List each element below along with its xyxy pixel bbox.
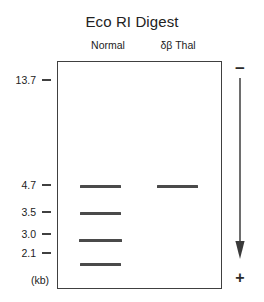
band-normal-3-5 — [80, 212, 121, 215]
ladder-label-3-5: 3.5 — [21, 206, 36, 218]
axis-unit-label: (kb) — [31, 274, 49, 286]
positive-electrode-label: + — [232, 270, 248, 286]
ladder-tick-3-0: 3.0 — [21, 227, 57, 241]
tick-mark-icon — [42, 211, 51, 212]
band-normal-2-0 — [80, 263, 121, 266]
band-normal-4-7 — [80, 185, 121, 188]
migration-direction-arrow-icon — [232, 78, 248, 260]
lane-header-db-thal: δβ Thal — [142, 39, 214, 51]
band-db-thal-4-7 — [157, 185, 198, 188]
lane-header-normal: Normal — [69, 39, 147, 51]
tick-mark-icon — [42, 79, 51, 80]
ladder-tick-13-7: 13.7 — [16, 73, 57, 87]
ladder-label-4-7: 4.7 — [21, 179, 36, 191]
tick-mark-icon — [42, 184, 51, 185]
gel-plate — [57, 61, 222, 289]
band-normal-2-8 — [79, 239, 122, 242]
ladder-tick-2-1: 2.1 — [21, 246, 57, 260]
eco-ri-digest-figure: Eco RI Digest Normal δβ Thal 13.7 4.7 3.… — [0, 0, 264, 302]
ladder-tick-4-7: 4.7 — [21, 178, 57, 192]
kb-ladder-axis: 13.7 4.7 3.5 3.0 2.1 (kb) — [0, 0, 57, 302]
tick-mark-icon — [42, 252, 51, 253]
tick-mark-icon — [42, 233, 51, 234]
negative-electrode-label: − — [232, 60, 248, 77]
ladder-label-13-7: 13.7 — [16, 74, 36, 86]
ladder-label-2-1: 2.1 — [21, 247, 36, 259]
ladder-tick-3-5: 3.5 — [21, 205, 57, 219]
ladder-label-3-0: 3.0 — [21, 228, 36, 240]
